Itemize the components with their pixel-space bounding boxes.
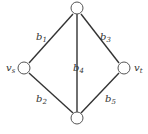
node-bottom [71,112,83,124]
label-vt: vt [134,62,143,75]
graph-diagram: vs vt b1 b2 b3 b4 b5 [0,0,148,134]
label-b1: b1 [36,31,47,44]
label-vs: vs [6,62,16,75]
label-b5: b5 [105,93,116,106]
node-top [71,2,83,14]
label-b4: b4 [73,62,84,75]
node-vs [18,62,30,74]
edge-b5 [81,73,119,113]
label-b2: b2 [36,93,47,106]
node-vt [118,62,130,74]
label-b3: b3 [100,31,111,44]
